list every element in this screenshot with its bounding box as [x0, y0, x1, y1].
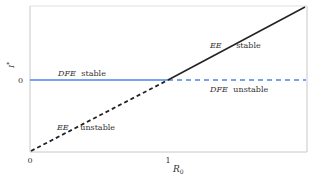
- xtick-label-0: 0: [27, 156, 32, 165]
- bifurcation-chart: DFE stable DFE unstable EE unstable EE s…: [0, 0, 311, 174]
- x-axis-label: R0: [172, 164, 184, 174]
- annotation-dfe-unstable: DFE unstable: [209, 85, 268, 94]
- y-axis-label: I*: [5, 62, 16, 69]
- ytick-label-0: 0: [18, 76, 23, 85]
- annotation-ee-stable: EE stable: [209, 41, 261, 50]
- svg-text:I*: I*: [5, 62, 16, 69]
- annotation-ee-unstable: EE unstable: [56, 123, 115, 132]
- xtick-label-1: 1: [165, 156, 170, 165]
- series-ee-unstable: [31, 80, 168, 151]
- annotation-dfe-stable: DFE stable: [57, 69, 106, 78]
